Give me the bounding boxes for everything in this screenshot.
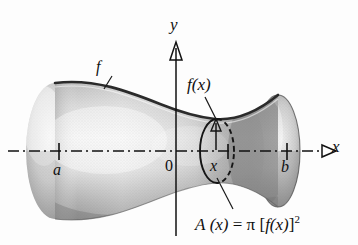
area-formula-equals: = (233, 215, 243, 234)
x-axis-label: x (332, 138, 340, 155)
area-formula: A (x) = π [f(x)]2 (195, 214, 300, 233)
radius-label-fx: f(x) (187, 76, 211, 93)
area-formula-lhs: A (195, 215, 205, 234)
y-axis-label: y (170, 16, 178, 33)
area-formula-fx: f(x) (265, 215, 289, 234)
area-formula-exponent: 2 (294, 213, 300, 225)
solid-of-revolution-figure: y x f f(x) a 0 x b A (x) = π [f(x)]2 (0, 0, 358, 245)
tick-label-a: a (53, 162, 61, 178)
origin-label: 0 (165, 158, 173, 174)
area-formula-pi: π (247, 215, 256, 234)
tick-label-b: b (281, 159, 289, 175)
area-formula-arg: (x) (210, 215, 229, 234)
tick-label-x: x (210, 158, 217, 174)
solid-of-revolution-body (0, 0, 358, 245)
figure-canvas (0, 0, 358, 245)
curve-label-f: f (96, 59, 100, 75)
